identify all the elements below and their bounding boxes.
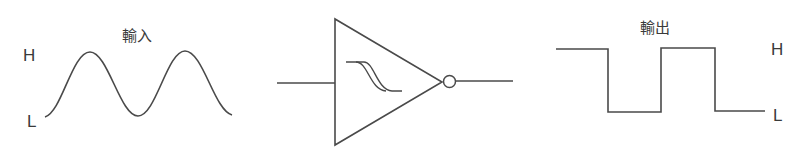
inversion-bubble — [444, 76, 456, 88]
input-title: 輸入 — [122, 24, 152, 45]
input-low-label: L — [27, 112, 36, 132]
output-low-label: L — [773, 106, 782, 126]
buffer-triangle — [335, 19, 442, 145]
output-square-waveform — [556, 48, 765, 112]
input-high-label: H — [23, 46, 35, 66]
hysteresis-icon — [346, 62, 402, 91]
output-title: 輸出 — [640, 16, 670, 37]
output-high-label: H — [771, 40, 783, 60]
input-sine-waveform — [45, 51, 232, 117]
